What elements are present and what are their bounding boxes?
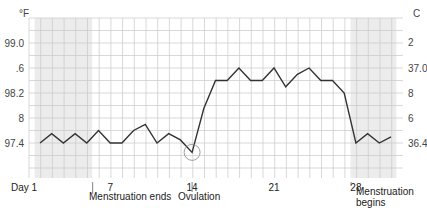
- y-tick-right: 2: [408, 37, 414, 48]
- menstruation-begins-label-line2: begins: [356, 197, 385, 208]
- y-axis-right-celsius: 237.08636.4: [408, 37, 427, 149]
- unit-fahrenheit-label: °F: [19, 8, 29, 19]
- menstruation-begins-label-line1: Menstruation: [356, 186, 414, 197]
- menstruation-ends-label: Menstruation ends: [89, 191, 171, 202]
- y-tick-right: 37.0: [408, 63, 427, 74]
- x-tick: 21: [268, 182, 280, 193]
- y-tick-left: 8: [18, 113, 24, 124]
- menstruation-shading: [35, 18, 397, 178]
- y-tick-left: .6: [16, 63, 25, 74]
- bbt-chart: 99.0.698.2897.4 237.08636.4 Day 17142128…: [0, 0, 427, 213]
- y-tick-right: 8: [408, 88, 414, 99]
- y-axis-left-fahrenheit: 99.0.698.2897.4: [5, 38, 25, 149]
- y-tick-left: 99.0: [5, 38, 25, 49]
- ovulation-label: Ovulation: [178, 191, 220, 202]
- menstruation-shade-0: [35, 18, 93, 178]
- y-tick-left: 97.4: [5, 138, 25, 149]
- y-tick-left: 98.2: [5, 88, 25, 99]
- y-tick-right: 6: [408, 113, 414, 124]
- y-tick-right: 36.4: [408, 138, 427, 149]
- x-tick: Day 1: [11, 182, 38, 193]
- menstruation-shade-1: [351, 18, 397, 178]
- unit-celsius-label: C: [413, 8, 420, 19]
